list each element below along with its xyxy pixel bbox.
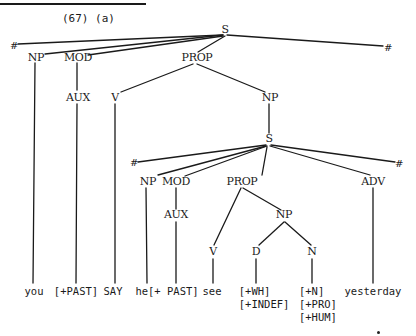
node-embedded-boundary-left: # [130, 157, 138, 169]
feature-n: [+N] [299, 285, 337, 298]
node-embedded-v: V [209, 246, 217, 258]
scan-mark [377, 331, 380, 334]
node-d: D [252, 246, 261, 258]
leaf-d-features: [+WH] [+INDEF] [239, 285, 290, 311]
node-np-object: NP [262, 92, 278, 104]
feature-wh: [+WH] [239, 285, 290, 298]
node-embedded-adv: ADV [361, 176, 385, 188]
node-boundary-left: # [10, 40, 18, 52]
node-embedded-prop: PROP [227, 176, 258, 188]
leaf-see: see [203, 285, 222, 298]
leaf-past: [+PAST] [54, 285, 98, 298]
leaf-you: you [25, 285, 44, 298]
feature-indef: [+INDEF] [239, 298, 290, 311]
node-boundary-right: # [384, 42, 392, 54]
node-embedded-aux: AUX [164, 209, 188, 221]
leaf-yesterday: yesterday [345, 285, 402, 298]
node-embedded-np-object: NP [276, 209, 292, 221]
node-s-embedded: S [265, 133, 272, 145]
node-embedded-boundary-right: # [395, 158, 403, 170]
node-n: N [307, 246, 316, 258]
feature-hum: [+HUM] [299, 311, 337, 324]
leaf-he-past: he[+ PAST] [135, 285, 198, 298]
node-embedded-np: NP [140, 176, 156, 188]
node-prop: PROP [182, 52, 213, 64]
node-mod: MOD [64, 52, 92, 64]
node-aux: AUX [66, 92, 90, 104]
node-embedded-mod: MOD [162, 176, 190, 188]
node-v: V [111, 92, 119, 104]
feature-pro: [+PRO] [299, 298, 337, 311]
leaf-n-features: [+N] [+PRO] [+HUM] [299, 285, 337, 324]
node-s-root: S [221, 24, 228, 36]
node-np-subject: NP [28, 52, 44, 64]
leaf-say: SAY [104, 285, 123, 298]
